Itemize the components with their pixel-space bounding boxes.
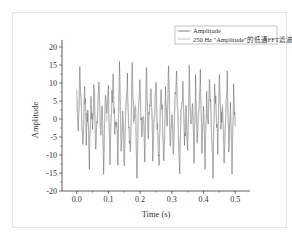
x-tick-label: 0.1 bbox=[103, 195, 113, 204]
legend: Amplitude 250 Hz "Amplitude"的低通FFT滤波 bbox=[175, 26, 292, 44]
y-tick-label: 5 bbox=[53, 97, 57, 106]
y-axis-title: Amplitude bbox=[30, 102, 40, 139]
y-tick-label: 0 bbox=[53, 115, 57, 124]
x-axis-title: Time (s) bbox=[142, 209, 171, 219]
y-tick-label: -15 bbox=[46, 169, 57, 178]
plot-area bbox=[77, 62, 236, 179]
y-tick-label: -10 bbox=[46, 151, 57, 160]
chart-svg: 20151050-5-10-15-20 0.00.10.20.30.40.5 A… bbox=[0, 0, 292, 238]
x-axis: 0.00.10.20.30.40.5 bbox=[62, 191, 250, 204]
y-tick-label: -5 bbox=[50, 133, 57, 142]
series-filtered bbox=[77, 79, 236, 157]
y-tick-label: -20 bbox=[46, 187, 57, 196]
x-tick-label: 0.4 bbox=[199, 195, 209, 204]
legend-label-amplitude: Amplitude bbox=[193, 27, 221, 34]
y-tick-label: 15 bbox=[49, 61, 57, 70]
y-tick-label: 10 bbox=[49, 79, 57, 88]
x-tick-label: 0.5 bbox=[230, 195, 240, 204]
series-amplitude bbox=[77, 62, 236, 179]
y-axis: 20151050-5-10-15-20 bbox=[46, 40, 62, 196]
x-tick-label: 0.3 bbox=[167, 195, 177, 204]
x-tick-label: 0.0 bbox=[72, 195, 82, 204]
y-tick-label: 20 bbox=[49, 43, 57, 52]
x-tick-label: 0.2 bbox=[135, 195, 145, 204]
legend-label-filtered: 250 Hz "Amplitude"的低通FFT滤波 bbox=[193, 35, 292, 44]
